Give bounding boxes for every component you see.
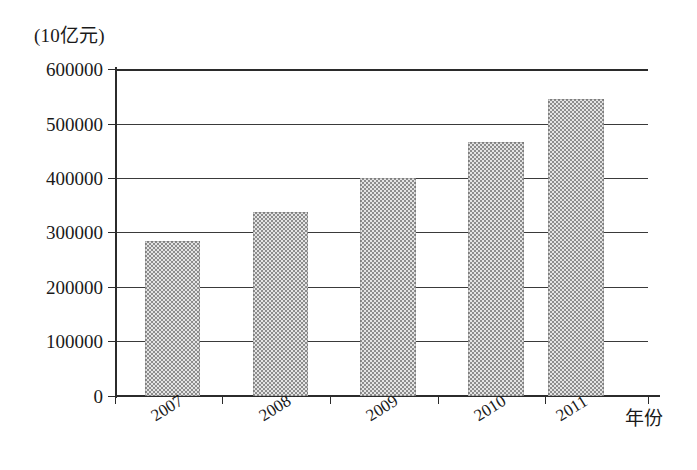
bar-group <box>0 0 697 470</box>
bar-2008 <box>253 212 308 396</box>
bar-chart-figure: (10亿元) 600000 500000 400000 300000 20000… <box>0 0 697 470</box>
x-tick-mark-5 <box>648 396 649 404</box>
x-tick-mark-1 <box>222 396 223 404</box>
bar-2009 <box>360 178 416 396</box>
bar-2007 <box>145 241 200 396</box>
bar-2011 <box>548 99 604 396</box>
x-axis-caption: 年份 <box>625 408 663 430</box>
x-tick-mark-4 <box>545 396 546 404</box>
x-tick-mark-2 <box>330 396 331 404</box>
bar-2010 <box>468 142 524 396</box>
x-tick-mark-3 <box>438 396 439 404</box>
x-tick-mark-0 <box>115 396 116 404</box>
